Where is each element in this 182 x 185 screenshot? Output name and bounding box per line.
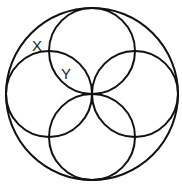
inner-circle-left <box>6 51 92 137</box>
inner-circle-right <box>92 51 178 137</box>
circle-diagram: X Y <box>0 0 182 185</box>
inner-circle-bottom <box>49 94 135 180</box>
label-x: X <box>32 37 42 54</box>
label-y: Y <box>61 65 71 82</box>
